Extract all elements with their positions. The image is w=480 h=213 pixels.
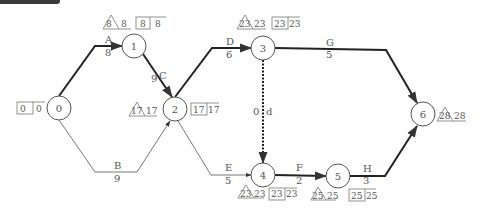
svg-text:8: 8 (105, 47, 111, 58)
svg-text:B: B (114, 160, 121, 171)
activity-g: G 5 (275, 37, 417, 103)
svg-text:F: F (296, 162, 303, 173)
svg-text:0: 0 (253, 106, 259, 117)
svg-text:25: 25 (327, 191, 339, 201)
activity-f: F 2 (275, 162, 326, 186)
svg-text:17: 17 (131, 106, 143, 116)
svg-text:E: E (225, 162, 232, 173)
activity-h: H 3 (350, 126, 417, 186)
activity-b: B 9 (59, 120, 170, 184)
svg-text:17: 17 (193, 105, 205, 115)
svg-text:25: 25 (366, 191, 378, 201)
node-3-label: 3 (260, 43, 266, 54)
svg-text:8: 8 (106, 19, 112, 29)
svg-text:5: 5 (326, 49, 332, 60)
activity-e: E 5 (178, 121, 251, 186)
svg-text:0: 0 (20, 104, 26, 114)
svg-text:0: 0 (36, 104, 42, 114)
node-4-label: 4 (260, 170, 266, 181)
svg-text:28: 28 (439, 111, 451, 121)
svg-text:25: 25 (312, 191, 324, 201)
node-5-label: 5 (335, 171, 341, 182)
network-diagram: A 8 B 9 C 9 D 6 E 5 0 d F 2 G 5 H 3 (0, 0, 480, 213)
svg-text:17: 17 (146, 106, 158, 116)
node-1-label: 1 (131, 41, 137, 52)
activity-a: A 8 (59, 34, 122, 96)
activity-d: D 6 (175, 36, 251, 97)
svg-text:23: 23 (274, 19, 286, 29)
svg-text:23: 23 (289, 19, 301, 29)
svg-text:2: 2 (296, 175, 302, 186)
svg-text:23: 23 (271, 189, 283, 199)
svg-text:C: C (159, 70, 167, 81)
svg-text:23: 23 (254, 19, 266, 29)
svg-text:d: d (266, 106, 273, 117)
node-2-label: 2 (172, 104, 178, 115)
svg-text:5: 5 (225, 175, 231, 186)
svg-text:3: 3 (363, 175, 369, 186)
svg-text:23: 23 (240, 189, 252, 199)
svg-text:9: 9 (151, 73, 157, 84)
svg-text:8: 8 (121, 19, 127, 29)
svg-text:17: 17 (208, 105, 220, 115)
node-0-label: 0 (56, 103, 62, 114)
svg-text:6: 6 (226, 49, 232, 60)
svg-text:D: D (226, 36, 234, 47)
svg-text:H: H (363, 163, 372, 174)
node-6-label: 6 (420, 109, 426, 120)
svg-text:G: G (326, 37, 334, 48)
svg-text:28: 28 (454, 111, 466, 121)
activity-c: C 9 (143, 54, 172, 97)
activity-dummy-d: 0 d (253, 60, 273, 163)
svg-text:25: 25 (351, 191, 363, 201)
svg-text:8: 8 (140, 19, 146, 29)
svg-text:23: 23 (286, 189, 298, 199)
svg-text:9: 9 (114, 173, 120, 184)
svg-text:23: 23 (239, 19, 251, 29)
svg-text:23: 23 (254, 189, 266, 199)
svg-text:8: 8 (155, 19, 161, 29)
svg-text:A: A (104, 34, 113, 45)
